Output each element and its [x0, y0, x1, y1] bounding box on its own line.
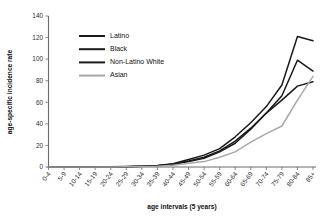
x-axis-tick-label: 0-4 — [41, 170, 52, 182]
y-axis-tick-label: 80 — [36, 77, 44, 84]
x-axis-tick-label: 35-39 — [145, 170, 161, 188]
x-axis-tick-label: 30-34 — [130, 170, 146, 188]
x-axis-tick-label: 55-59 — [207, 170, 223, 188]
y-axis-tick-label: 0 — [39, 163, 43, 170]
y-axis-tick-label: 40 — [36, 120, 44, 127]
y-axis-tick-label: 20 — [36, 142, 44, 149]
y-axis-tick-group: 020406080100120140 — [32, 12, 48, 170]
x-axis-tick-label: 50-54 — [192, 170, 208, 188]
x-axis-tick-label: 85+ — [304, 170, 316, 183]
chart-legend: LatinoBlackNon-Latino WhiteAsian — [79, 32, 164, 79]
chart-figure: 020406080100120140 0-45-910-1415-1920-24… — [0, 0, 324, 223]
x-axis-tick-label: 65-69 — [238, 170, 254, 188]
legend-label-latino: Latino — [110, 32, 129, 39]
x-axis-tick-label: 20-24 — [98, 170, 114, 188]
y-axis-tick-label: 140 — [32, 12, 43, 19]
legend-label-asian: Asian — [110, 71, 128, 78]
y-axis-tick-label: 100 — [32, 55, 43, 62]
x-axis-tick-label: 25-29 — [114, 170, 130, 188]
legend-label-non-latino-white: Non-Latino White — [110, 58, 164, 65]
x-axis-title: age intervals (5 years) — [147, 203, 216, 211]
x-axis-tick-label: 40-44 — [161, 170, 177, 188]
series-line-latino — [49, 36, 314, 167]
x-axis-tick-label: 75-79 — [270, 170, 286, 188]
x-axis-tick-label: 15-19 — [83, 170, 99, 188]
line-chart: 020406080100120140 0-45-910-1415-1920-24… — [0, 0, 324, 223]
y-axis-tick-label: 60 — [36, 99, 44, 106]
x-axis-tick-group: 0-45-910-1415-1920-2425-2930-3435-3940-4… — [41, 167, 317, 188]
x-axis-tick-label: 45-49 — [176, 170, 192, 188]
x-axis-tick-label: 5-9 — [56, 170, 67, 182]
x-axis-tick-label: 80-84 — [285, 170, 301, 188]
series-line-asian — [49, 76, 314, 167]
x-axis-tick-label: 70-74 — [254, 170, 270, 188]
legend-label-black: Black — [110, 45, 128, 52]
y-axis-title: age-specific incidence rate — [6, 50, 14, 135]
series-group — [49, 36, 314, 167]
x-axis-tick-label: 10-14 — [67, 170, 83, 188]
series-line-non-latino-white — [49, 82, 314, 167]
y-axis-tick-label: 120 — [32, 34, 43, 41]
x-axis-tick-label: 60-64 — [223, 170, 239, 188]
